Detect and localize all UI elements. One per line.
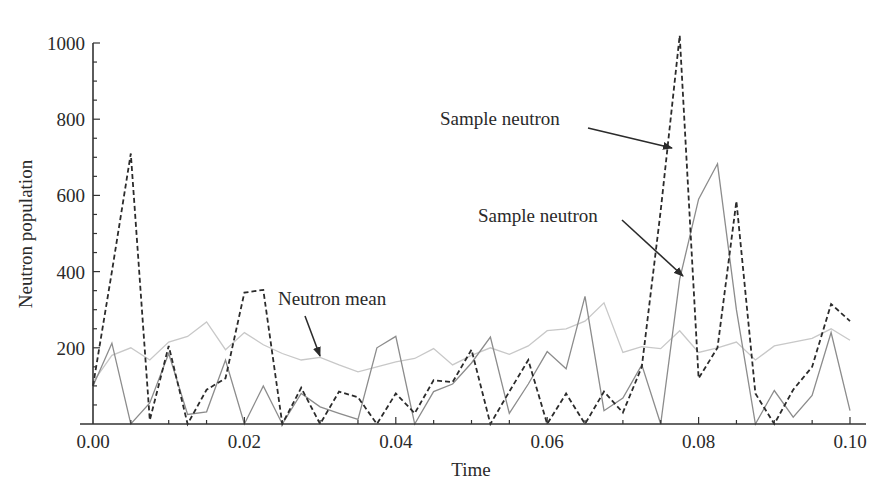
line-chart: 2004006008001000 0.000.020.040.060.080.1… bbox=[0, 0, 886, 496]
arrow-icon bbox=[622, 220, 683, 276]
annotation-sample-neutron-solid: Sample neutron bbox=[478, 205, 598, 226]
annotations: Sample neutron Sample neutron Neutron me… bbox=[278, 108, 683, 356]
plot-series bbox=[93, 35, 850, 424]
x-tick-label: 0.04 bbox=[379, 431, 413, 452]
x-tick-label: 0.10 bbox=[833, 431, 866, 452]
axes bbox=[80, 43, 866, 424]
series-line-2 bbox=[93, 303, 850, 382]
y-tick-label: 200 bbox=[57, 338, 86, 359]
x-tick-label: 0.02 bbox=[228, 431, 261, 452]
x-tick-label: 0.00 bbox=[76, 431, 109, 452]
x-tick-label: 0.08 bbox=[682, 431, 715, 452]
y-tick-label: 800 bbox=[57, 109, 86, 130]
x-tick-label: 0.06 bbox=[531, 431, 564, 452]
series-line-0 bbox=[93, 35, 850, 424]
arrow-icon bbox=[588, 128, 672, 148]
annotation-neutron-mean: Neutron mean bbox=[278, 288, 387, 309]
y-axis-title: Neutron population bbox=[15, 159, 36, 308]
annotation-sample-neutron-dashed: Sample neutron bbox=[440, 108, 560, 129]
arrow-icon bbox=[305, 316, 320, 356]
x-axis-title: Time bbox=[451, 459, 490, 480]
y-tick-label: 600 bbox=[57, 185, 86, 206]
y-ticks: 2004006008001000 bbox=[47, 33, 100, 405]
x-ticks: 0.000.020.040.060.080.10 bbox=[76, 417, 866, 452]
y-tick-label: 400 bbox=[57, 262, 86, 283]
y-tick-label: 1000 bbox=[47, 33, 85, 54]
